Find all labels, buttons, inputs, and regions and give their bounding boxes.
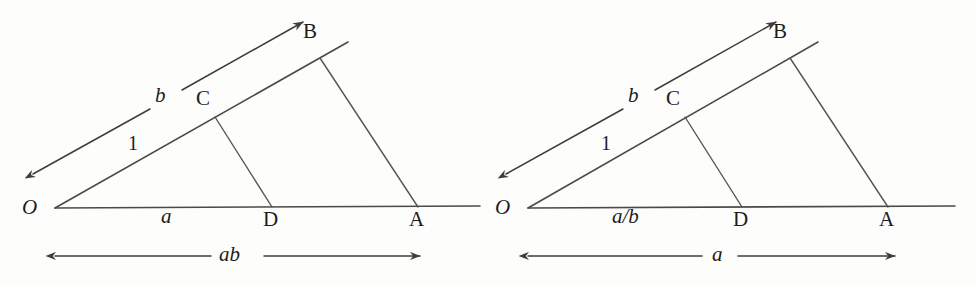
point-label-d: D bbox=[263, 209, 278, 230]
segment-label-ray: b bbox=[155, 85, 166, 106]
segment-ba bbox=[320, 58, 418, 207]
oblique-ray-line bbox=[55, 42, 348, 208]
oblique-ray-line bbox=[528, 42, 818, 208]
result-label-ab: ab bbox=[219, 244, 240, 265]
geometry-canvas bbox=[0, 0, 975, 285]
point-label-a: A bbox=[409, 209, 424, 230]
result-label-a: a bbox=[712, 244, 723, 265]
point-label-b: B bbox=[773, 21, 787, 42]
point-label-b: B bbox=[303, 21, 317, 42]
segment-label-base: a bbox=[161, 206, 172, 227]
point-label-o: O bbox=[495, 197, 510, 218]
segment-label-base: a/b bbox=[612, 206, 639, 227]
segment-cd bbox=[215, 117, 272, 207]
point-label-o: O bbox=[22, 197, 37, 218]
point-label-c: C bbox=[666, 88, 680, 109]
segment-label-unit: 1 bbox=[128, 133, 138, 153]
point-label-d: D bbox=[733, 209, 748, 230]
segment-cd bbox=[685, 117, 742, 207]
segment-ba bbox=[790, 58, 888, 207]
segment-label-ray: b bbox=[628, 85, 639, 106]
segment-label-unit: 1 bbox=[601, 133, 611, 153]
measure-b-upper-arrow bbox=[182, 22, 303, 90]
point-label-a: A bbox=[879, 209, 894, 230]
figure-page: O A B C D 1 a b ab O A B C D 1 a/b b a bbox=[0, 0, 975, 285]
point-label-c: C bbox=[196, 88, 210, 109]
measure-b-upper-arrow bbox=[655, 22, 776, 90]
